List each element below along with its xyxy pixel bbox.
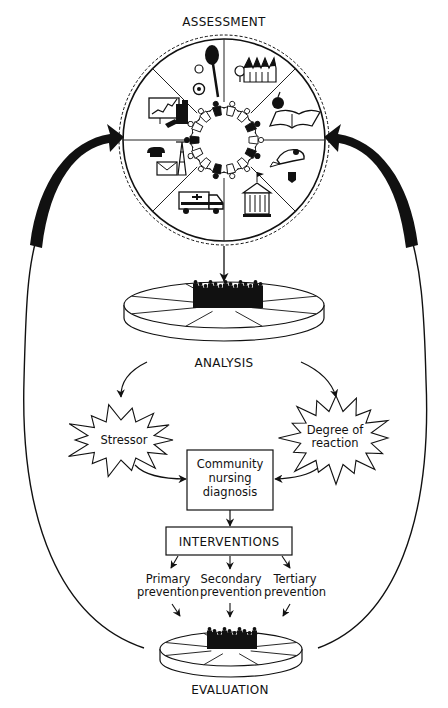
person-silhouette-body xyxy=(198,286,203,309)
person-silhouette xyxy=(254,280,258,284)
person-silhouette xyxy=(248,631,252,635)
person-silhouette-body xyxy=(242,633,247,650)
arrow-to-tertiary xyxy=(282,556,290,568)
arrow-stressor-to-diagnosis xyxy=(135,465,186,479)
person-silhouette-body xyxy=(258,286,263,309)
degree-of-reaction-line1: Degree of xyxy=(307,423,365,437)
evaluation-disc xyxy=(160,627,302,677)
assessment-label: ASSESSMENT xyxy=(182,15,266,29)
evaluation-people-silhouettes xyxy=(207,627,257,649)
feedback-arrow-left xyxy=(30,124,124,248)
person-silhouette xyxy=(249,284,253,288)
person-silhouette-body xyxy=(233,288,238,309)
person-silhouette xyxy=(219,284,223,288)
person-silhouette xyxy=(239,280,243,284)
person-silhouette xyxy=(224,280,228,284)
tertiary-prevention-line1: Tertiary xyxy=(272,572,316,586)
primary-prevention: Primary prevention xyxy=(137,572,199,599)
person-silhouette xyxy=(204,284,208,288)
person-silhouette xyxy=(238,627,242,631)
person-silhouette xyxy=(244,282,248,286)
stressor-label: Stressor xyxy=(100,433,147,447)
person-silhouette-body xyxy=(212,633,217,650)
arrow-to-primary xyxy=(171,556,178,568)
person-silhouette xyxy=(234,284,238,288)
person-silhouette-body xyxy=(243,286,248,309)
person-silhouette-body xyxy=(237,631,242,650)
person-silhouette-body xyxy=(238,284,243,309)
arrow-tertiary-to-evaluation xyxy=(283,604,290,616)
diagnosis-line2: nursing xyxy=(208,471,251,485)
person-silhouette-body xyxy=(222,631,227,650)
person-silhouette xyxy=(259,282,263,286)
assessment-wheel xyxy=(119,35,329,245)
stressor-starburst: Stressor xyxy=(69,405,174,477)
feedback-arrow-right xyxy=(324,124,418,248)
arrow-analysis-to-stressor xyxy=(121,362,147,397)
person-silhouette-body xyxy=(207,631,212,650)
person-silhouette-body xyxy=(193,284,198,309)
person-silhouette xyxy=(208,627,212,631)
person-silhouette-body xyxy=(217,635,222,650)
person-silhouette xyxy=(229,282,233,286)
interventions-label: INTERVENTIONS xyxy=(179,535,280,549)
interventions-box: INTERVENTIONS xyxy=(166,527,292,555)
tertiary-prevention-line2: prevention xyxy=(264,585,326,599)
secondary-prevention-line1: Secondary xyxy=(201,572,262,586)
analysis-label: ANALYSIS xyxy=(195,356,254,370)
person-silhouette-body xyxy=(232,635,237,650)
person-silhouette xyxy=(213,629,217,633)
analysis-disc xyxy=(124,280,324,341)
person-silhouette-body xyxy=(228,286,233,309)
person-silhouette xyxy=(199,282,203,286)
person-silhouette-body xyxy=(208,284,213,309)
community-nursing-process-diagram: ASSESSMENT xyxy=(0,0,448,708)
person-silhouette-body xyxy=(252,631,257,650)
diagnosis-line1: Community xyxy=(197,457,264,471)
person-silhouette xyxy=(233,631,237,635)
person-silhouette-body xyxy=(203,288,208,309)
person-silhouette-body xyxy=(247,635,252,650)
person-silhouette-body xyxy=(213,286,218,309)
tertiary-prevention: Tertiary prevention xyxy=(264,572,326,599)
person-silhouette xyxy=(194,280,198,284)
primary-prevention-line1: Primary xyxy=(146,572,191,586)
evaluation-label: EVALUATION xyxy=(191,683,269,697)
person-silhouette xyxy=(243,629,247,633)
secondary-prevention-line2: prevention xyxy=(200,585,262,599)
person-silhouette-body xyxy=(223,284,228,309)
secondary-prevention: Secondary prevention xyxy=(200,572,262,599)
person-silhouette xyxy=(223,627,227,631)
arrow-analysis-to-reaction xyxy=(301,362,336,397)
person-silhouette-body xyxy=(253,284,258,309)
person-silhouette xyxy=(209,280,213,284)
person-silhouette xyxy=(214,282,218,286)
person-silhouette xyxy=(218,631,222,635)
person-silhouette-body xyxy=(248,288,253,309)
primary-prevention-line2: prevention xyxy=(137,585,199,599)
community-nursing-diagnosis-box: Community nursing diagnosis xyxy=(187,450,273,510)
person-silhouette xyxy=(253,627,257,631)
degree-of-reaction-starburst: Degree of reaction xyxy=(279,396,389,485)
person-silhouette-body xyxy=(218,288,223,309)
degree-of-reaction-line2: reaction xyxy=(312,436,359,450)
diagnosis-line3: diagnosis xyxy=(203,485,257,499)
person-silhouette xyxy=(228,629,232,633)
arrow-primary-to-evaluation xyxy=(172,604,180,616)
person-silhouette-body xyxy=(227,633,232,650)
